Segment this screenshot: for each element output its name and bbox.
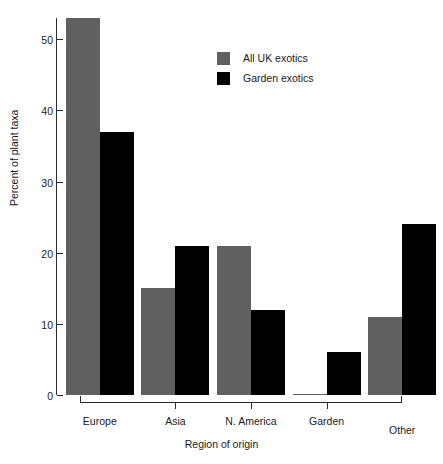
x-tick-label-other: Other [389, 424, 415, 436]
bar-other-garden-exotics [402, 224, 436, 395]
y-tick-label-40: 40 [41, 106, 53, 117]
bar-other-all-uk-exotics [368, 317, 402, 395]
bar-n-america-all-uk-exotics [217, 246, 251, 395]
y-tick-label-30: 30 [41, 177, 53, 188]
y-tick-label-20: 20 [41, 248, 53, 259]
x-axis [62, 395, 440, 403]
x-tick-label-n-america: N. America [225, 415, 276, 427]
x-tick-n-america [251, 402, 252, 409]
bar-n-america-garden-exotics [251, 310, 285, 395]
x-axis-title: Region of origin [0, 438, 443, 450]
x-tick-asia [175, 402, 176, 409]
y-tick-label-10: 10 [41, 320, 53, 331]
chart-legend: All UK exoticsGarden exotics [217, 48, 314, 88]
x-tick-label-garden: Garden [309, 415, 344, 427]
bar-europe-all-uk-exotics [66, 18, 100, 395]
legend-item-garden-exotics: Garden exotics [217, 68, 314, 88]
x-tick-label-europe: Europe [83, 415, 117, 427]
bar-asia-garden-exotics [175, 246, 209, 395]
legend-label: All UK exotics [243, 52, 308, 64]
bar-chart: 01020304050 Percent of plant taxa Region… [0, 0, 443, 464]
x-axis-line [80, 402, 402, 403]
x-tick-label-asia: Asia [165, 415, 185, 427]
bar-asia-all-uk-exotics [141, 288, 175, 395]
y-axis-title: Percent of plant taxa [8, 110, 20, 206]
legend-swatch-icon [217, 52, 230, 65]
x-tick-garden [327, 402, 328, 409]
bar-europe-garden-exotics [100, 132, 134, 395]
y-tick-label-50: 50 [41, 35, 53, 46]
legend-swatch-icon [217, 72, 230, 85]
legend-label: Garden exotics [243, 72, 314, 84]
legend-item-all-uk-exotics: All UK exotics [217, 48, 314, 68]
bar-garden-garden-exotics [327, 352, 361, 395]
y-tick-label-0: 0 [47, 391, 53, 402]
